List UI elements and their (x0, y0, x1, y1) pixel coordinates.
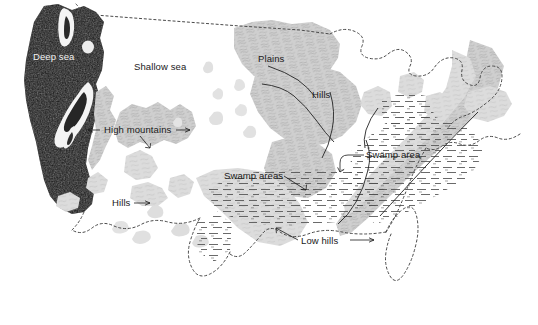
map-canvas: Deep sea Shallow sea Plains Hills High m… (0, 0, 538, 325)
label-low-hills: Low hills (301, 235, 338, 246)
label-deep-sea: Deep sea (33, 51, 75, 62)
label-hills-west: Hills (112, 197, 131, 208)
shoal-i (171, 223, 190, 236)
label-shallow-sea: Shallow sea (134, 61, 187, 72)
label-swamp-areas: Swamp areas (224, 170, 283, 181)
shoal-l (112, 221, 129, 234)
shoal-f (243, 126, 256, 138)
label-plains: Plains (258, 53, 285, 64)
label-high-mountains: High mountains (104, 124, 172, 135)
relief-western-ridge-a (124, 150, 158, 180)
deep-sea-shoal-dot (82, 41, 94, 54)
label-swamp-area: Swamp area (366, 149, 421, 160)
relief-hills-midwest (250, 66, 362, 146)
shoal-a (203, 62, 213, 74)
label-hills-midwest: Hills (312, 89, 331, 100)
shoal-h (147, 206, 163, 219)
shoal-b (212, 88, 223, 100)
shoal-e (235, 104, 247, 116)
shoal-d (209, 112, 223, 126)
shoal-k (132, 230, 151, 244)
shoal-c (234, 79, 245, 91)
paleogeographic-map: Deep sea Shallow sea Plains Hills High m… (0, 0, 538, 325)
relief-western-ridge-b (168, 174, 194, 198)
relief-new-england (464, 86, 512, 122)
